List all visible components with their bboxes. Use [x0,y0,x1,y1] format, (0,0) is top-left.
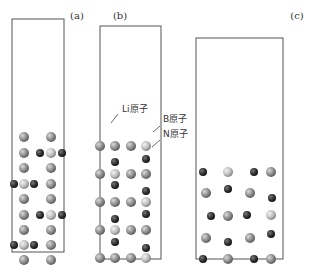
atom-li [110,141,120,151]
atomic-structure-diagram: (a)(b)(c)Li原子B原子N原子 [0,0,319,272]
atom-n [250,168,258,176]
atom-n [58,149,66,157]
atom-n [36,149,44,157]
atom-li [201,233,211,243]
atom-li [126,253,136,263]
panel-label-b: (b) [113,10,127,21]
atom-li [95,197,105,207]
panel-label-c: (c) [290,10,304,21]
atom-li [46,240,56,250]
annotation-label: B原子 [163,114,187,124]
annotation-leader-line [153,126,160,132]
atom-li [126,197,136,207]
atom-li [245,233,255,243]
atom-li [245,188,255,198]
atom-n [142,210,150,218]
atom-b [46,148,56,158]
atom-b [110,225,120,235]
atom-n [207,212,215,220]
atom-li [46,194,56,204]
atom-n [267,230,275,238]
atom-li [46,255,56,265]
atom-li [19,132,29,142]
annotation-leader-line [152,140,160,147]
atom-li [141,225,151,235]
atom-li [46,179,56,189]
atom-n [10,180,18,188]
atom-b [141,141,151,151]
atom-li [110,197,120,207]
atom-li [201,188,211,198]
atom-li [95,253,105,263]
atom-n [142,244,150,252]
atom-li [266,254,276,264]
atom-li [110,253,120,263]
atom-n [224,185,232,193]
atom-li [46,132,56,142]
atom-n [268,194,276,202]
atom-b [19,179,29,189]
atom-li [19,163,29,173]
simulation-box-c [196,38,283,259]
atom-n [36,211,44,219]
atom-b [46,210,56,220]
atom-li [95,141,105,151]
atom-n [250,255,258,263]
atom-b [141,197,151,207]
atom-b [141,253,151,263]
atom-li [95,225,105,235]
atom-n [10,241,18,249]
annotation-label: N原子 [163,129,188,139]
atom-li [46,163,56,173]
atom-li [126,169,136,179]
figure: (a)(b)(c)Li原子B原子N原子 [0,0,319,272]
atom-b [223,167,233,177]
atom-li [141,169,151,179]
atom-n [30,180,38,188]
panel-label-a: (a) [70,10,84,21]
atom-li [19,255,29,265]
atom-li [223,254,233,264]
atom-n [243,211,251,219]
atom-b [110,169,120,179]
atom-n [142,155,150,163]
atom-li [19,210,29,220]
atom-n [30,241,38,249]
atom-n [199,255,207,263]
atom-li [19,148,29,158]
atom-n [142,187,150,195]
atom-b [19,240,29,250]
atom-n [58,211,66,219]
atom-li [126,141,136,151]
atom-li [19,225,29,235]
atom-n [111,181,119,189]
annotation-leader-line [111,114,118,123]
atom-n [224,238,232,246]
atom-n [111,238,119,246]
atom-li [19,194,29,204]
atom-n [111,158,119,166]
atom-li [266,167,276,177]
atom-li [46,225,56,235]
atom-li [126,225,136,235]
atom-n [111,215,119,223]
annotation-label: Li原子 [122,104,148,114]
atom-b [266,210,276,220]
atom-n [199,168,207,176]
atom-li [223,211,233,221]
atom-li [95,169,105,179]
